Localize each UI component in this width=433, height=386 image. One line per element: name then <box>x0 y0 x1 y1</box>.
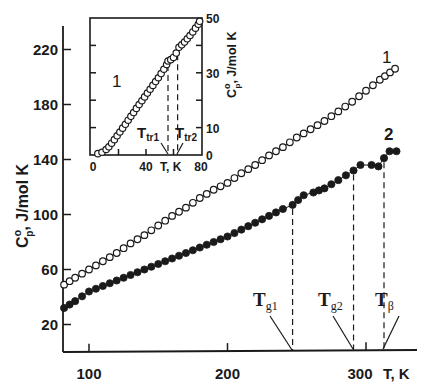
y-tick-label: 220 <box>33 41 58 58</box>
data-point <box>224 180 231 187</box>
data-point <box>259 216 266 223</box>
inset-y-tick-label: 50 <box>206 12 220 26</box>
data-point <box>210 186 217 193</box>
data-point <box>357 161 364 168</box>
x-axis <box>63 350 417 352</box>
data-point <box>196 244 203 251</box>
y-tick-label: 180 <box>33 96 58 113</box>
inset-x-tick-label: 40 <box>139 160 153 174</box>
data-point <box>350 167 357 174</box>
data-point <box>169 213 176 220</box>
data-point <box>321 185 328 192</box>
data-point <box>120 245 127 252</box>
data-point <box>203 241 210 248</box>
data-point <box>259 157 266 164</box>
data-point <box>189 247 196 254</box>
transition-label-tg1: Tg1 <box>253 289 278 313</box>
data-point <box>314 122 321 129</box>
data-point <box>127 240 134 247</box>
y-tick-label: 140 <box>33 151 58 168</box>
data-point <box>342 103 349 110</box>
curve-label-1: 1 <box>382 48 391 67</box>
data-point <box>155 260 162 267</box>
data-point <box>252 162 259 169</box>
transition-label-tβ: Tβ <box>375 289 394 313</box>
data-point <box>335 108 342 115</box>
data-point <box>328 113 335 120</box>
data-point <box>183 204 190 211</box>
data-point <box>134 236 141 243</box>
data-point <box>300 192 307 199</box>
data-point <box>356 93 363 100</box>
data-point <box>78 293 85 300</box>
data-point <box>380 155 387 162</box>
data-point <box>93 262 100 269</box>
data-point <box>190 200 197 207</box>
data-point <box>106 280 113 287</box>
data-point <box>375 163 382 170</box>
data-point <box>368 161 375 168</box>
data-point <box>155 222 162 229</box>
data-point <box>392 65 399 72</box>
data-point <box>162 217 169 224</box>
data-point <box>92 285 99 292</box>
x-tick-label: 100 <box>76 365 101 382</box>
data-point <box>293 134 300 141</box>
x-axis-title: T, K <box>383 365 410 382</box>
data-point <box>321 118 328 125</box>
x-tick-label: 300 <box>347 365 372 382</box>
data-point <box>169 255 176 262</box>
data-point <box>72 274 79 281</box>
annotation-pointer <box>270 316 292 350</box>
data-point <box>231 175 238 182</box>
data-point <box>363 87 370 94</box>
data-point <box>335 177 342 184</box>
inset-x-tick-label: 80 <box>194 160 208 174</box>
data-point <box>265 212 272 219</box>
data-point <box>72 298 79 305</box>
data-point <box>113 277 120 284</box>
inset-x-tick-label: 0 <box>90 160 97 174</box>
data-point <box>197 195 204 202</box>
data-point <box>182 249 189 256</box>
data-point <box>252 219 259 226</box>
data-point <box>86 266 93 273</box>
data-point <box>280 144 287 151</box>
inset-curve-label-1: 1 <box>112 72 121 91</box>
data-point <box>175 252 182 259</box>
inset-plot: 010305004080T, KCop, J/mol KTtr1Ttr21 <box>90 12 242 174</box>
data-point <box>393 148 400 155</box>
data-point <box>342 172 349 179</box>
data-point <box>127 271 134 278</box>
data-point <box>196 18 202 24</box>
y-tick-label: 100 <box>33 206 58 223</box>
data-point <box>300 130 307 137</box>
data-point <box>141 232 148 239</box>
data-point <box>287 139 294 146</box>
data-point <box>245 166 252 173</box>
data-point <box>99 282 106 289</box>
data-point <box>148 227 155 234</box>
data-point <box>203 191 210 198</box>
data-point <box>85 288 92 295</box>
data-point <box>210 238 217 245</box>
y-tick-label: 60 <box>41 261 58 278</box>
data-point <box>273 148 280 155</box>
data-point <box>266 152 273 159</box>
data-point <box>386 148 393 155</box>
data-point <box>113 250 120 257</box>
data-point <box>238 170 245 177</box>
data-point <box>134 269 141 276</box>
transition-label-tg2: Tg2 <box>318 289 343 313</box>
annotation-pointer <box>383 316 399 349</box>
data-point <box>370 82 377 89</box>
data-point <box>79 270 86 277</box>
data-point <box>224 233 231 240</box>
data-point <box>106 254 113 261</box>
annotation-pointer <box>333 316 353 349</box>
data-point <box>176 208 183 215</box>
x-tick-label: 200 <box>215 365 240 382</box>
curve-label-2: 2 <box>384 125 393 144</box>
data-point <box>349 98 356 105</box>
data-point <box>162 258 169 265</box>
